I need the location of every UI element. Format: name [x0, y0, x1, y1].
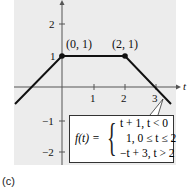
x-tick-label-2: 2: [121, 93, 127, 104]
y-tick-label-2: 2: [49, 19, 55, 30]
x-axis-label: t: [183, 81, 186, 92]
x-tick-label-1: 1: [90, 93, 96, 104]
figure-caption: (c): [2, 175, 15, 187]
y-tick-label-m2: −2: [42, 147, 54, 158]
function-name: f(t) =: [75, 132, 100, 144]
point-label-0-1: (0, 1): [66, 38, 92, 50]
point-0-1: [59, 53, 65, 59]
x-axis-arrow-icon: [176, 85, 181, 90]
case-3: −t + 3, t > 2: [120, 147, 175, 159]
y-tick-label-m1: −1: [42, 116, 54, 127]
brace-icon: {: [107, 118, 117, 158]
y-axis-arrow-icon: [60, 0, 65, 5]
y-tick-label-1: 1: [50, 51, 56, 62]
function-definition-box: f(t) = { t + 1, t < 0 1, 0 ≤ t ≤ 2 −t + …: [69, 115, 174, 163]
x-tick-label-3: 3: [152, 93, 158, 104]
point-2-1: [122, 53, 128, 59]
case-2: 1, 0 ≤ t ≤ 2: [126, 132, 176, 144]
case-1: t + 1, t < 0: [120, 117, 168, 129]
point-label-2-1: (2, 1): [112, 38, 138, 50]
